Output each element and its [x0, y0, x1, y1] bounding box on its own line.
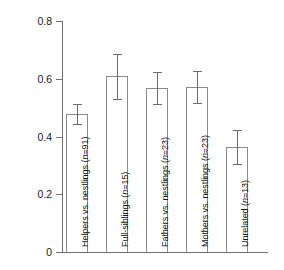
error-bar-upper-cap-5: [233, 130, 242, 131]
y-tick-label: 0.8: [12, 16, 52, 26]
error-bar-lower-cap-2: [113, 99, 122, 100]
y-tick-label: 0.2: [12, 189, 52, 199]
sample-size-symbol: n: [80, 155, 90, 160]
error-bar-lower-cap-3: [153, 104, 162, 105]
error-bar-upper-cap-4: [193, 71, 202, 72]
y-tick-mark: [56, 137, 62, 138]
y-tick-mark: [56, 252, 62, 253]
y-tick-mark: [56, 21, 62, 22]
error-bar-stem-4: [197, 71, 198, 103]
sample-size-symbol: n: [200, 153, 210, 158]
sample-size-symbol: n: [240, 198, 250, 203]
error-bar-stem-5: [237, 130, 238, 164]
sample-size-symbol: n: [120, 190, 130, 195]
y-tick-mark: [56, 79, 62, 80]
error-bar-stem-2: [117, 54, 118, 100]
bar-category-label-1: Helpers vs. nestlings (n=91): [81, 137, 90, 247]
y-tick-mark: [56, 194, 62, 195]
y-tick-label: 0.6: [12, 74, 52, 84]
error-bar-upper-cap-3: [153, 72, 162, 73]
error-bar-stem-3: [157, 72, 158, 104]
error-bar-upper-cap-2: [113, 54, 122, 55]
sample-size-symbol: n: [160, 155, 170, 160]
y-tick-label: 0: [12, 247, 52, 257]
y-axis-line: [62, 21, 63, 252]
y-tick-label: 0.4: [12, 132, 52, 142]
error-bar-stem-1: [77, 104, 78, 124]
x-axis-line: [62, 252, 268, 253]
bar-category-label-4: Mothers vs. nestlings (n=23): [201, 135, 210, 247]
bar-category-label-2: Full-siblings (n=15): [121, 172, 130, 247]
error-bar-lower-cap-1: [73, 124, 82, 125]
bar-category-label-5: Unrelated (n=13): [241, 180, 250, 247]
bar-category-label-3: Fathers vs. nestlings (n=23): [161, 137, 170, 247]
error-bar-lower-cap-5: [233, 164, 242, 165]
error-bar-upper-cap-1: [73, 104, 82, 105]
error-bar-lower-cap-4: [193, 103, 202, 104]
bar-chart-figure: Genetic similarity 00.20.40.60.8 Helpers…: [0, 0, 284, 270]
